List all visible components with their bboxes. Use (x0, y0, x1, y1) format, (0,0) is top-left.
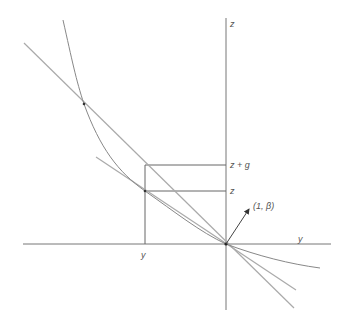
vector-label: (1, β) (253, 201, 274, 211)
secant-line (96, 157, 296, 290)
z-axis-label: z (229, 19, 235, 29)
upper-intersection-point (83, 103, 86, 106)
diagram: z y y z + g z (1, β) (0, 0, 338, 332)
y-z-point (144, 190, 147, 193)
isoquant-curve (63, 20, 320, 268)
y-tick-label: y (140, 250, 146, 260)
steep-tangent-line (24, 43, 294, 308)
z-tick-label: z (229, 186, 235, 196)
z-plus-g-label: z + g (229, 160, 250, 170)
normal-vector-arrow (226, 209, 249, 244)
y-axis-label: y (297, 234, 303, 244)
